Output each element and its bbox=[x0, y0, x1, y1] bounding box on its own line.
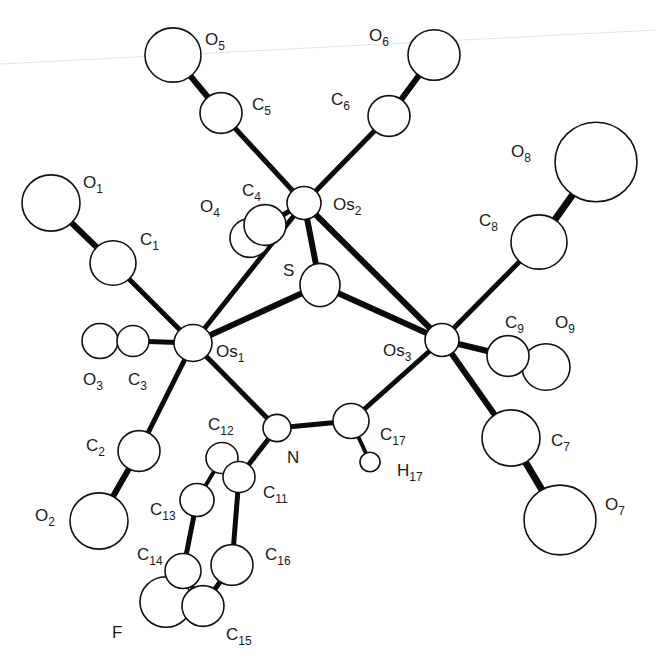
atoms-layer bbox=[22, 28, 637, 627]
atom-c15 bbox=[182, 586, 224, 627]
atom-label-os1: Os1 bbox=[216, 342, 245, 365]
atom-label-c9: C9 bbox=[505, 313, 524, 336]
atom-label-o4: O4 bbox=[200, 197, 220, 220]
atom-o2 bbox=[70, 493, 128, 549]
atom-o7 bbox=[524, 485, 596, 555]
atom-os2 bbox=[287, 187, 321, 220]
atom-label-o5: O5 bbox=[205, 30, 225, 53]
atom-label-c12: C12 bbox=[208, 415, 234, 438]
atom-n bbox=[263, 414, 291, 441]
atom-label-o7: O7 bbox=[605, 495, 625, 518]
atom-label-c4: C4 bbox=[242, 181, 261, 204]
atom-c8 bbox=[511, 215, 567, 269]
atom-label-f: F bbox=[112, 623, 122, 642]
atom-o3 bbox=[82, 324, 118, 359]
atom-label-c16: C16 bbox=[265, 545, 291, 568]
atom-c7 bbox=[482, 410, 540, 466]
atom-o1 bbox=[22, 175, 80, 231]
atom-os1 bbox=[174, 325, 212, 362]
atom-label-c6: C6 bbox=[331, 90, 350, 113]
atom-c5 bbox=[200, 93, 242, 134]
atom-label-c17: C17 bbox=[380, 425, 406, 448]
atom-c1 bbox=[90, 241, 136, 286]
atom-o8 bbox=[555, 122, 637, 202]
molecular-structure-diagram: O5C5O6C6O1C1Os2SO8C8Os1Os3NC17H17C7O7C2O… bbox=[0, 0, 656, 661]
atom-label-c3: C3 bbox=[128, 370, 147, 393]
atom-label-c11: C11 bbox=[263, 483, 288, 506]
atom-label-o2: O2 bbox=[35, 506, 55, 529]
atom-label-c7: C7 bbox=[551, 431, 570, 454]
atom-o9 bbox=[522, 344, 570, 391]
atom-label-o9: O9 bbox=[555, 313, 575, 336]
atom-label-c5: C5 bbox=[252, 95, 271, 118]
atom-label-c8: C8 bbox=[479, 211, 498, 234]
atom-c14 bbox=[165, 554, 201, 589]
atom-o6 bbox=[408, 30, 460, 80]
atom-os3 bbox=[425, 324, 459, 357]
atom-c4 bbox=[244, 205, 286, 246]
atom-label-c13: C13 bbox=[150, 500, 176, 523]
atom-label-o3: O3 bbox=[83, 370, 103, 393]
atom-c17 bbox=[333, 404, 369, 439]
atom-label-s: S bbox=[283, 261, 294, 280]
scan-artifact-line bbox=[0, 30, 656, 64]
atom-h17 bbox=[360, 452, 380, 471]
atom-c3 bbox=[117, 325, 149, 356]
atom-label-os3: Os3 bbox=[383, 341, 412, 364]
atom-label-c14: C14 bbox=[137, 545, 163, 568]
atom-c16 bbox=[211, 545, 253, 586]
atom-label-o1: O1 bbox=[83, 173, 103, 196]
atom-label-c15: C15 bbox=[226, 625, 252, 648]
atom-c6 bbox=[368, 96, 410, 137]
atom-label-os2: Os2 bbox=[333, 195, 362, 218]
atom-c11 bbox=[223, 461, 255, 492]
atom-label-c2: C2 bbox=[86, 436, 105, 459]
atom-s bbox=[300, 263, 340, 306]
atom-o5 bbox=[145, 28, 201, 82]
atom-label-n: N bbox=[287, 448, 299, 467]
atom-label-o8: O8 bbox=[511, 142, 531, 165]
atom-c2 bbox=[118, 431, 160, 472]
atom-label-o6: O6 bbox=[369, 26, 389, 49]
atom-label-c1: C1 bbox=[140, 230, 159, 253]
atom-label-h17: H17 bbox=[397, 461, 423, 484]
atom-c9 bbox=[487, 336, 529, 377]
atom-c13 bbox=[180, 484, 214, 517]
